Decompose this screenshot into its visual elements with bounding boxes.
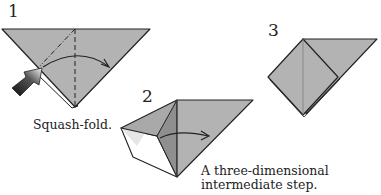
step-3-figure: [268, 39, 377, 117]
step-2-caption-line2: intermediate step.: [201, 178, 317, 191]
step-2-number: 2: [142, 88, 153, 105]
step-2-caption-line1: A three-dimensional: [201, 164, 329, 177]
step-1-figure: [2, 29, 150, 108]
step-3-number: 3: [268, 22, 279, 39]
step-1-caption: Squash-fold.: [33, 118, 112, 131]
step-1-number: 1: [8, 3, 19, 20]
push-arrow-icon: [12, 68, 42, 96]
